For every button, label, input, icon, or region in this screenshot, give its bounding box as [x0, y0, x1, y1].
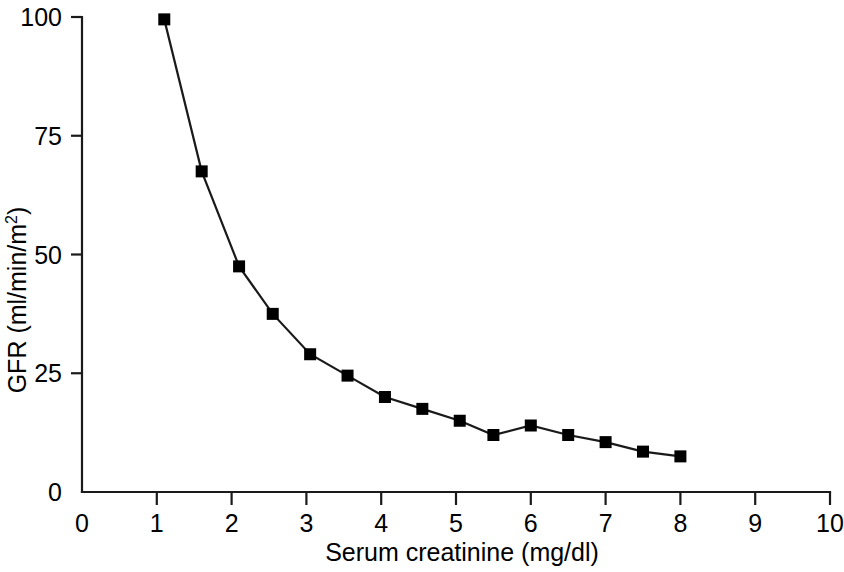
data-point-marker: [454, 415, 466, 427]
x-tick-label: 7: [599, 509, 613, 537]
data-series-markers: [158, 13, 686, 462]
y-axis-title-close: ): [3, 207, 31, 215]
gfr-vs-serum-creatinine-chart: 0255075100 012345678910 Serum creatinine…: [0, 0, 844, 572]
data-point-marker: [637, 446, 649, 458]
x-tick-label: 2: [225, 509, 239, 537]
x-tick-label: 0: [75, 509, 89, 537]
data-point-marker: [379, 391, 391, 403]
x-tick-label: 1: [150, 509, 164, 537]
data-point-marker: [304, 348, 316, 360]
y-tick-label: 50: [34, 241, 62, 269]
data-point-marker: [562, 429, 574, 441]
data-point-marker: [674, 450, 686, 462]
x-tick-label: 4: [374, 509, 388, 537]
x-tick-label: 9: [748, 509, 762, 537]
data-point-marker: [158, 13, 170, 25]
y-tick-label: 0: [48, 478, 62, 506]
chart-figure: 0255075100 012345678910 Serum creatinine…: [0, 0, 844, 572]
data-point-marker: [416, 403, 428, 415]
y-axis-title: GFR (ml/min/m2): [3, 207, 31, 394]
data-point-marker: [196, 165, 208, 177]
y-axis-tick-marks: [71, 17, 82, 373]
data-point-marker: [525, 420, 537, 432]
x-tick-label: 8: [673, 509, 687, 537]
data-point-marker: [487, 429, 499, 441]
y-axis-title-base: GFR (ml/min/m: [3, 224, 31, 393]
data-point-marker: [233, 260, 245, 272]
y-tick-label: 100: [20, 3, 62, 31]
x-axis-tick-marks: [157, 492, 830, 505]
y-tick-label: 75: [34, 122, 62, 150]
x-axis-tick-labels: 012345678910: [75, 509, 844, 537]
data-point-marker: [267, 308, 279, 320]
data-point-marker: [342, 370, 354, 382]
y-axis-title-superscript: 2: [3, 215, 20, 224]
data-series-line: [164, 19, 680, 456]
y-tick-label: 25: [34, 359, 62, 387]
x-tick-label: 6: [524, 509, 538, 537]
x-axis-title: Serum creatinine (mg/dl): [325, 538, 599, 566]
data-point-marker: [600, 436, 612, 448]
x-tick-label: 10: [816, 509, 844, 537]
x-tick-label: 5: [449, 509, 463, 537]
x-tick-label: 3: [299, 509, 313, 537]
